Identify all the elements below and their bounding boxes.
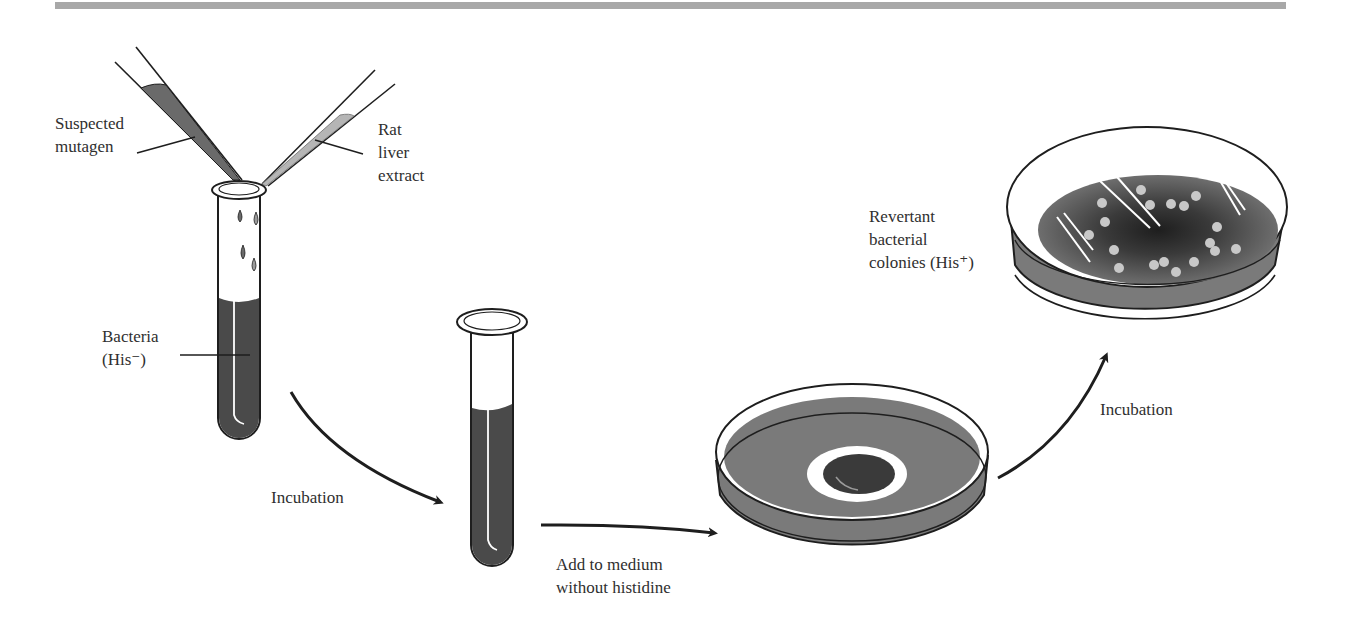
label-rat-liver-extract: Rat liver extract [378, 118, 424, 187]
pipette-mutagen [115, 47, 242, 183]
plate-initial [716, 384, 988, 545]
pointer-liver [315, 140, 363, 154]
label-incubation-2: Incubation [1100, 398, 1173, 421]
tube-incubated [457, 309, 527, 566]
label-suspected-mutagen: Suspected mutagen [55, 112, 124, 158]
arrow-add-to-medium [541, 525, 714, 533]
plate-result [1007, 127, 1287, 319]
pipette-liver-extract [262, 70, 395, 186]
pointer-mutagen [137, 137, 195, 153]
arrow-incubation-2 [998, 356, 1106, 478]
label-incubation-1: Incubation [271, 486, 344, 509]
label-revertant-colonies: Revertant bacterial colonies (His⁺) [869, 205, 974, 274]
ames-test-illustration [0, 0, 1357, 644]
label-add-to-medium: Add to medium without histidine [556, 553, 671, 599]
label-bacteria: Bacteria (His⁻) [102, 325, 159, 371]
tube-mix [115, 47, 395, 439]
